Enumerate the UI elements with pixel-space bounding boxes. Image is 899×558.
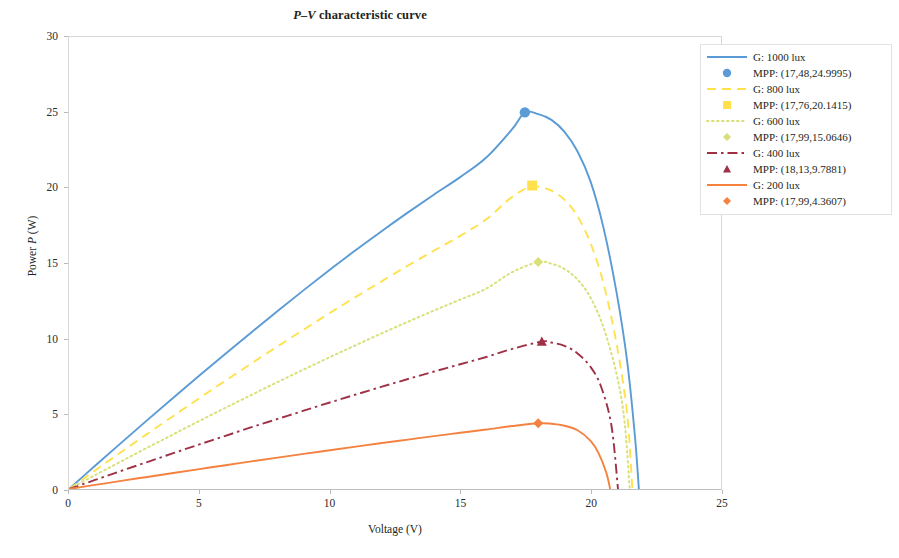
mpp-marker-1000lux [520, 107, 530, 117]
legend-item-200lux[interactable]: G: 200 lux [705, 177, 887, 193]
legend-marker-swatch [705, 130, 749, 144]
legend-series-label: G: 800 lux [749, 82, 800, 96]
legend-line-swatch [705, 146, 749, 160]
x-tick-label: 25 [697, 497, 747, 509]
legend-marker-swatch [705, 98, 749, 112]
legend-item-mpp-200lux[interactable]: MPP: (17,99,4.3607) [705, 193, 887, 209]
legend-mpp-label: MPP: (18,13,9.7881) [749, 162, 846, 176]
plot-area [68, 36, 722, 490]
x-tick-mark [591, 490, 592, 494]
chart-title-rest: characteristic curve [316, 8, 427, 22]
legend-item-1000lux[interactable]: G: 1000 lux [705, 49, 887, 65]
x-tick-mark [199, 490, 200, 494]
legend-series-label: G: 200 lux [749, 178, 800, 192]
y-tick-mark [64, 339, 68, 340]
legend-marker-swatch [705, 194, 749, 208]
legend-series-label: G: 600 lux [749, 114, 800, 128]
legend-marker-swatch [705, 162, 749, 176]
legend-line-swatch [705, 114, 749, 128]
y-tick-label: 30 [14, 30, 58, 42]
mpp-marker-600lux [533, 257, 543, 267]
plot-canvas [69, 37, 721, 489]
chart-title: P–V characteristic curve [0, 8, 720, 23]
chart-figure: P–V characteristic curve 051015202530051… [0, 0, 899, 558]
y-axis-label-pre: Power [26, 244, 38, 276]
legend-line-swatch [705, 82, 749, 96]
legend-series-label: G: 400 lux [749, 146, 800, 160]
x-tick-label: 15 [435, 497, 485, 509]
legend-item-mpp-1000lux[interactable]: MPP: (17,48,24.9995) [705, 65, 887, 81]
y-axis-label-italic: P [26, 237, 38, 244]
mpp-marker-200lux [533, 418, 543, 428]
x-tick-mark [460, 490, 461, 494]
legend-mpp-label: MPP: (17,99,15.0646) [749, 130, 851, 144]
series-line-1000lux [69, 111, 639, 489]
legend-series-label: G: 1000 lux [749, 50, 806, 64]
mpp-marker-800lux [527, 181, 537, 191]
x-tick-mark [68, 490, 69, 494]
legend-mpp-label: MPP: (17,76,20.1415) [749, 98, 851, 112]
x-tick-label: 10 [305, 497, 355, 509]
legend-item-mpp-400lux[interactable]: MPP: (18,13,9.7881) [705, 161, 887, 177]
y-tick-mark [64, 263, 68, 264]
legend-item-600lux[interactable]: G: 600 lux [705, 113, 887, 129]
x-tick-label: 5 [174, 497, 224, 509]
chart-legend: G: 1000 luxMPP: (17,48,24.9995)G: 800 lu… [700, 44, 892, 215]
legend-item-mpp-600lux[interactable]: MPP: (17,99,15.0646) [705, 129, 887, 145]
y-tick-mark [64, 112, 68, 113]
legend-line-swatch [705, 50, 749, 64]
x-axis-label: Voltage (V) [68, 523, 722, 535]
legend-item-mpp-800lux[interactable]: MPP: (17,76,20.1415) [705, 97, 887, 113]
legend-mpp-label: MPP: (17,99,4.3607) [749, 194, 846, 208]
legend-item-800lux[interactable]: G: 800 lux [705, 81, 887, 97]
legend-mpp-label: MPP: (17,48,24.9995) [749, 66, 851, 80]
x-tick-label: 0 [43, 497, 93, 509]
y-axis-label-post: (W) [26, 216, 38, 237]
x-tick-mark [722, 490, 723, 494]
x-tick-label: 20 [566, 497, 616, 509]
legend-line-swatch [705, 178, 749, 192]
chart-title-italic: P–V [293, 8, 316, 22]
y-tick-label: 25 [14, 106, 58, 118]
legend-marker-swatch [705, 66, 749, 80]
series-line-400lux [69, 341, 618, 489]
y-tick-label: 10 [14, 333, 58, 345]
series-line-600lux [69, 262, 630, 489]
legend-item-400lux[interactable]: G: 400 lux [705, 145, 887, 161]
y-tick-label: 5 [14, 408, 58, 420]
y-axis-label: Power P (W) [26, 176, 38, 316]
y-tick-label: 0 [14, 484, 58, 496]
y-tick-mark [64, 187, 68, 188]
series-line-200lux [69, 423, 610, 489]
x-tick-mark [330, 490, 331, 494]
y-tick-mark [64, 414, 68, 415]
y-tick-mark [64, 36, 68, 37]
